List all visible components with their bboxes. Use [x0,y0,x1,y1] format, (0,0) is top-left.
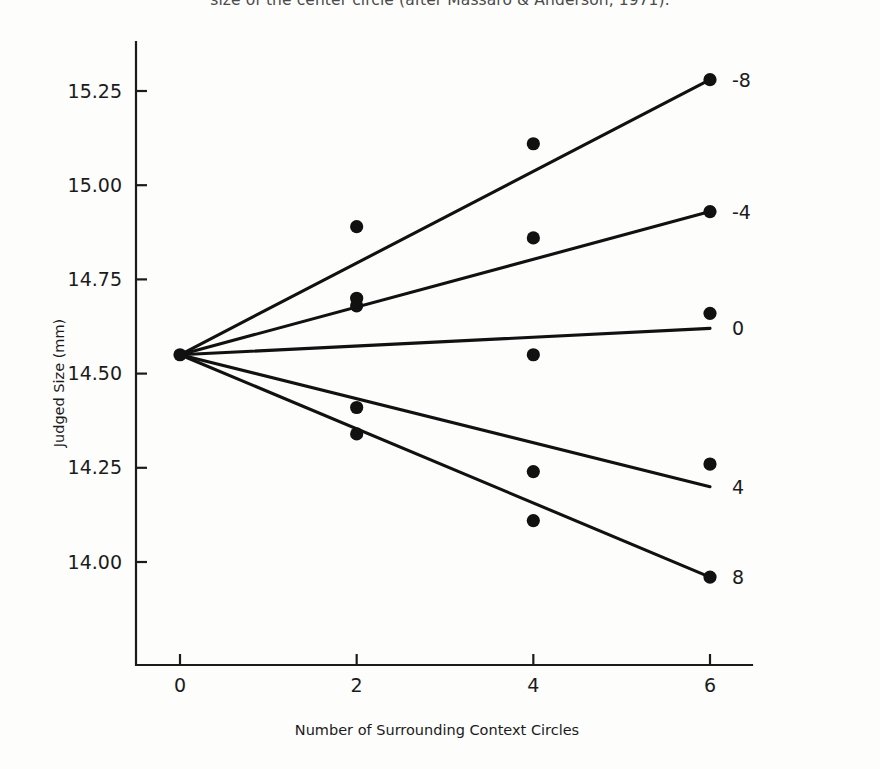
y-tick-label: 14.50 [68,362,122,384]
y-axis-tick-labels: 14.0014.2514.5014.7515.0015.25 [68,80,122,573]
data-point [527,348,540,361]
data-point [350,401,363,414]
series-lines-group [180,80,710,577]
data-point [527,137,540,150]
x-axis-ticks [180,654,710,665]
y-tick-label: 15.00 [68,174,122,196]
x-tick-label: 4 [527,674,539,696]
data-point [703,307,716,320]
y-tick-label: 15.25 [68,80,122,102]
series-label-0: 0 [732,317,744,339]
y-tick-label: 14.25 [68,456,122,478]
series-label-neg4: -4 [732,201,751,223]
y-tick-label: 14.75 [68,268,122,290]
series-label-4: 4 [732,476,744,498]
data-point [703,457,716,470]
x-axis-tick-labels: 0246 [174,674,716,696]
data-point [527,231,540,244]
series-label-8: 8 [732,566,744,588]
data-point [173,348,186,361]
chart-page: size of the center circle (after Massaro… [0,0,880,769]
x-tick-label: 6 [704,674,716,696]
series-label-neg8: -8 [732,69,751,91]
y-tick-label: 14.00 [68,551,122,573]
x-tick-label: 2 [351,674,363,696]
x-tick-label: 0 [174,674,186,696]
data-point [703,73,716,86]
data-point [350,299,363,312]
series-labels-group: -8-4048 [732,69,751,588]
y-axis-ticks [136,91,147,562]
data-point [527,465,540,478]
y-axis-title: Judged Size (mm) [51,319,67,449]
series-line-neg8 [180,80,710,355]
x-axis-title: Number of Surrounding Context Circles [295,722,579,738]
data-point [703,205,716,218]
data-point [703,570,716,583]
judged-size-line-chart: 14.0014.2514.5014.7515.0015.25 0246 Judg… [0,0,880,769]
data-point [350,220,363,233]
data-point [350,427,363,440]
data-point [527,514,540,527]
data-points-group [173,73,716,584]
